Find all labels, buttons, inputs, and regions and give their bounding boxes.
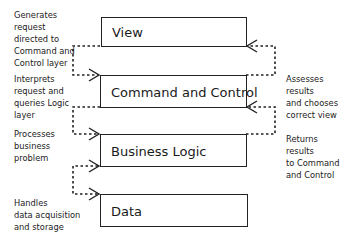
note-command-control: Interprets request and queries Logic lay…	[14, 73, 69, 121]
layer-label: Business Logic	[111, 143, 206, 158]
layer-command-control: Command and Control	[100, 75, 247, 108]
note-assesses-results: Assesses results and chooses correct vie…	[286, 73, 338, 121]
connector-view-to-command	[73, 46, 100, 75]
connector-logic-to-command	[246, 107, 275, 134]
layer-label: Data	[111, 203, 142, 218]
note-returns-results: Returns results to Command and Control	[286, 133, 340, 181]
layer-label: Command and Control	[111, 84, 258, 99]
layer-data: Data	[100, 194, 248, 227]
connector-logic-data	[73, 166, 98, 194]
connector-command-to-logic	[73, 107, 100, 134]
layer-business-logic: Business Logic	[100, 134, 247, 167]
note-business-logic: Processes business problem	[14, 128, 55, 164]
connector-command-to-view	[246, 46, 275, 75]
note-view: Generates request directed to Command an…	[14, 9, 75, 69]
layer-view: View	[101, 17, 247, 47]
note-data: Handles data acquisition and storage	[14, 197, 80, 233]
layer-label: View	[112, 25, 143, 40]
